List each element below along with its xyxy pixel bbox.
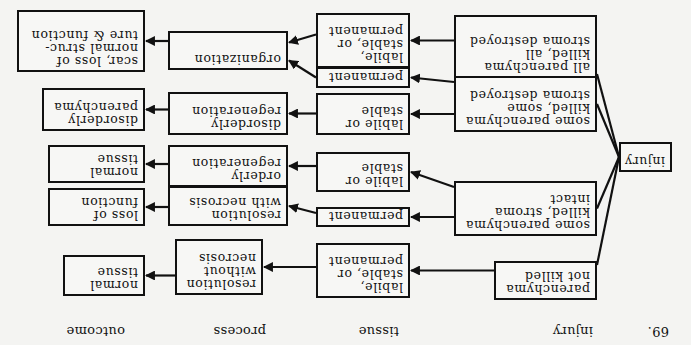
connector-arrow [411, 78, 454, 83]
process-node: resolution with necrosis [168, 186, 288, 226]
tissue-node: labile or stable [316, 93, 410, 135]
tissue-node: permanent [316, 67, 410, 88]
tissue-node: permanent [316, 207, 410, 227]
process-node: disorderly regeneration [168, 92, 288, 135]
injury-node-all-killed: all parenchyma killed, all stroma destro… [454, 15, 597, 78]
connector-line [597, 157, 619, 265]
outcome-node: scar, loss of normal struc- ture & funct… [17, 10, 145, 72]
connector-arrow [289, 61, 316, 78]
connector-line [597, 74, 619, 157]
process-node: resolution without necrosis [175, 239, 263, 295]
outcome-node: disorderly parenchyma [42, 88, 145, 131]
tissue-node: labile, stable, or permanent [316, 13, 410, 68]
outcome-node: normal tissue [48, 145, 145, 183]
connector-arrow [411, 172, 454, 187]
injury-node-some-killed-some-stroma: some parenchyma killed, some stroma dest… [454, 76, 597, 132]
connector-arrow [289, 35, 316, 43]
injury-node-some-killed-stroma-intact: some parenchyma killed, stroma intact [454, 181, 597, 236]
outcome-node: loss of function [48, 188, 145, 226]
outcome-node: normal tissue [63, 255, 145, 296]
process-node: organization [168, 31, 288, 70]
injury-node-parenchyma-not-killed: parenchyma not killed [494, 261, 597, 300]
connector-arrow [289, 206, 316, 213]
diagram-page: 69. injury tissue process outcome injury… [0, 0, 691, 345]
injury-root-node: injury [619, 142, 672, 172]
tissue-node: labile, stable, or permanent [316, 243, 410, 298]
process-node: orderly regeneration [168, 145, 288, 187]
tissue-node: labile or stable [316, 152, 410, 192]
connector-line [597, 157, 619, 209]
